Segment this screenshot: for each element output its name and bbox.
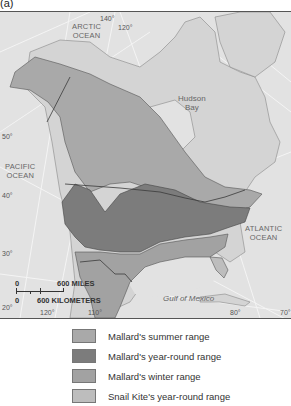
legend-swatch (72, 369, 96, 383)
gulf-of-mexico-label: Gulf of Mexico (163, 294, 214, 303)
legend-swatch (72, 349, 96, 363)
legend-swatch (72, 389, 96, 403)
lon-label: 110° (88, 309, 102, 316)
pacific-ocean-label: PACIFICOCEAN (5, 162, 35, 180)
lon-label: 120° (40, 309, 54, 316)
legend-item-year-round: Mallard's year-round range (72, 346, 230, 366)
map-legend: Mallard's summer range Mallard's year-ro… (72, 326, 230, 406)
legend-swatch (72, 329, 96, 343)
lon-label: 120° (118, 24, 132, 31)
legend-item-summer: Mallard's summer range (72, 326, 230, 346)
lat-label: 50° (2, 133, 13, 140)
lon-label: 140° (100, 15, 114, 22)
panel-label: (a) (0, 0, 13, 9)
arctic-ocean-label: ARCTICOCEAN (72, 22, 101, 40)
lat-label: 20° (2, 304, 13, 311)
atlantic-ocean-label: ATLANTICOCEAN (245, 224, 282, 242)
lon-label: 80° (230, 309, 241, 316)
legend-item-snail-kite: Snail Kite's year-round range (72, 386, 230, 406)
hudson-bay-label: HudsonBay (178, 94, 206, 112)
map-graphic (0, 12, 291, 318)
legend-item-winter: Mallard's winter range (72, 366, 230, 386)
range-map: ARCTICOCEAN HudsonBay PACIFICOCEAN ATLAN… (0, 11, 291, 319)
lat-label: 30° (2, 250, 13, 257)
lat-label: 40° (2, 192, 13, 199)
lon-label: 70° (280, 309, 291, 316)
